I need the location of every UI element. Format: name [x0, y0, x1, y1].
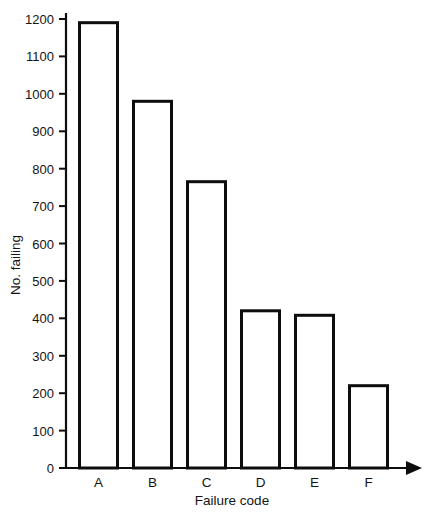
- x-category-label-a: A: [94, 475, 103, 490]
- chart-canvas: 0 100 200 300 400 500 600 700 800 900 10…: [0, 0, 428, 513]
- y-axis-tick-labels: 0 100 200 300 400 500 600 700 800 900 10…: [25, 12, 54, 476]
- bar-E: [296, 315, 334, 468]
- y-tick-label-800: 800: [32, 162, 54, 177]
- bar-B: [134, 101, 172, 468]
- y-tick-label-100: 100: [32, 424, 54, 439]
- x-category-label-c: C: [202, 475, 212, 490]
- bar-D: [242, 311, 280, 468]
- x-axis-arrow-icon: [406, 461, 422, 475]
- y-tick-label-500: 500: [32, 274, 54, 289]
- bar-A: [80, 23, 118, 468]
- x-category-label-f: F: [364, 475, 372, 490]
- x-category-label-b: B: [148, 475, 157, 490]
- y-tick-label-1000: 1000: [25, 87, 54, 102]
- y-tick-label-600: 600: [32, 237, 54, 252]
- y-tick-label-700: 700: [32, 199, 54, 214]
- x-axis-title: Failure code: [195, 493, 269, 508]
- y-tick-label-300: 300: [32, 349, 54, 364]
- y-tick-label-0: 0: [47, 461, 54, 476]
- y-axis-title: No. failing: [8, 235, 23, 295]
- y-tick-label-200: 200: [32, 386, 54, 401]
- bars-group: [80, 23, 388, 468]
- y-tick-label-1200: 1200: [25, 12, 54, 27]
- bar-chart: 0 100 200 300 400 500 600 700 800 900 10…: [0, 0, 428, 513]
- y-tick-label-400: 400: [32, 311, 54, 326]
- y-tick-label-1100: 1100: [26, 49, 54, 64]
- bar-C: [188, 182, 226, 468]
- x-category-label-e: E: [310, 475, 319, 490]
- y-tick-label-900: 900: [32, 124, 54, 139]
- x-category-label-d: D: [256, 475, 266, 490]
- x-axis-category-labels: A B C D E F: [94, 475, 373, 490]
- bar-F: [350, 386, 388, 468]
